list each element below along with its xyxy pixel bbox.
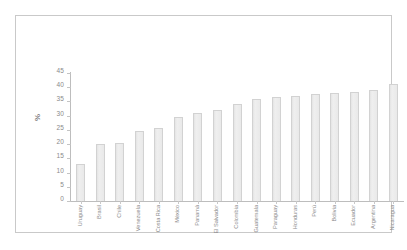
- y-axis-tick-label: 20: [57, 139, 64, 146]
- x-axis-tick-mark: [120, 201, 121, 204]
- x-axis-label-slot: Uruguay: [71, 203, 91, 249]
- x-axis-label-slot: Honduras: [286, 203, 306, 249]
- x-axis-label-slot: Argentina: [364, 203, 384, 249]
- bar-series: [71, 73, 403, 201]
- x-axis-tick-label: Paraguay: [273, 205, 279, 229]
- bar-slot: [71, 73, 91, 201]
- x-axis-tick-label: Costa Rica: [156, 205, 162, 232]
- bar-slot: [384, 73, 404, 201]
- x-axis-tick-mark: [139, 201, 140, 204]
- x-axis-label-slot: Brasil: [91, 203, 111, 249]
- bar-slot: [227, 73, 247, 201]
- bar-slot: [305, 73, 325, 201]
- bar[interactable]: [76, 164, 85, 201]
- x-axis-tick-mark: [335, 201, 336, 204]
- x-axis-tick-mark: [315, 201, 316, 204]
- bar[interactable]: [174, 117, 183, 201]
- y-axis-tick-label: 10: [57, 168, 64, 175]
- x-axis-tick-label: Colombia: [234, 205, 240, 229]
- bar-slot: [286, 73, 306, 201]
- x-axis-tick-mark: [217, 201, 218, 204]
- x-axis-label-slot: Venezuela: [130, 203, 150, 249]
- bar[interactable]: [389, 84, 398, 201]
- bar-slot: [325, 73, 345, 201]
- y-axis-tick-label: 15: [57, 153, 64, 160]
- chart-figure: % 051015202530354045 UruguayBrasilChileV…: [0, 0, 407, 250]
- x-axis-label-slot: Perú: [305, 203, 325, 249]
- x-axis-tick-label: Perú: [312, 205, 318, 217]
- bar[interactable]: [154, 128, 163, 201]
- y-axis-tick-label: 5: [60, 182, 64, 189]
- bar[interactable]: [291, 96, 300, 201]
- y-axis-tick-mark: [67, 201, 71, 202]
- x-axis-label-slot: Guatemala: [247, 203, 267, 249]
- bar[interactable]: [135, 131, 144, 201]
- bar-slot: [364, 73, 384, 201]
- x-axis-tick-label: Venezuela: [137, 205, 143, 231]
- bar[interactable]: [369, 90, 378, 201]
- bar-slot: [266, 73, 286, 201]
- bar[interactable]: [115, 143, 124, 201]
- x-axis-tick-mark: [237, 201, 238, 204]
- y-axis-tick-label: 45: [57, 68, 64, 75]
- bar-slot: [188, 73, 208, 201]
- x-axis-tick-label: México: [176, 205, 182, 223]
- x-axis-tick-label: Bolivia: [332, 205, 338, 221]
- x-axis-tick-label: Brasil: [98, 205, 104, 219]
- x-axis-tick-label: Argentina: [371, 205, 377, 229]
- x-axis-tick-mark: [354, 201, 355, 204]
- y-axis-tick-label: 40: [57, 82, 64, 89]
- x-axis-tick-label: El Salvador: [215, 205, 221, 234]
- x-axis-label-slot: El Salvador: [208, 203, 228, 249]
- y-axis-tick-label: 0: [60, 196, 64, 203]
- bar[interactable]: [272, 97, 281, 201]
- bar-slot: [91, 73, 111, 201]
- bar[interactable]: [311, 94, 320, 201]
- x-axis-labels: UruguayBrasilChileVenezuelaCosta RicaMéx…: [71, 203, 403, 249]
- x-axis-tick-label: Chile: [117, 205, 123, 218]
- x-axis-tick-label: Guatemala: [254, 205, 260, 232]
- x-axis-tick-label: Ecuador: [351, 205, 357, 226]
- x-axis-tick-label: Nicaragua: [390, 205, 396, 231]
- bar-slot: [149, 73, 169, 201]
- x-axis-label-slot: Bolivia: [325, 203, 345, 249]
- bar[interactable]: [193, 113, 202, 201]
- x-axis-label-slot: Chile: [110, 203, 130, 249]
- x-axis-tick-label: Uruguay: [78, 205, 84, 226]
- x-axis-tick-label: Honduras: [293, 205, 299, 229]
- bar-slot: [169, 73, 189, 201]
- x-axis-tick-mark: [296, 201, 297, 204]
- x-axis-tick-mark: [81, 201, 82, 204]
- x-axis-tick-mark: [100, 201, 101, 204]
- x-axis-tick-mark: [198, 201, 199, 204]
- x-axis-tick-mark: [178, 201, 179, 204]
- x-axis-tick-mark: [276, 201, 277, 204]
- bar[interactable]: [96, 144, 105, 201]
- bar[interactable]: [233, 104, 242, 201]
- x-axis-label-slot: Ecuador: [344, 203, 364, 249]
- x-axis-label-slot: Nicaragua: [384, 203, 404, 249]
- x-axis-label-slot: Paraguay: [266, 203, 286, 249]
- bar[interactable]: [252, 99, 261, 201]
- bar-slot: [247, 73, 267, 201]
- x-axis-label-slot: Costa Rica: [149, 203, 169, 249]
- x-axis-tick-label: Panamá: [195, 205, 201, 226]
- y-axis-tick-label: 25: [57, 125, 64, 132]
- bar-slot: [208, 73, 228, 201]
- chart-frame: % 051015202530354045 UruguayBrasilChileV…: [15, 15, 392, 233]
- x-axis-tick-mark: [257, 201, 258, 204]
- bar-slot: [110, 73, 130, 201]
- y-axis-title: %: [33, 114, 42, 121]
- x-axis-label-slot: México: [169, 203, 189, 249]
- x-axis-tick-mark: [159, 201, 160, 204]
- x-axis-label-slot: Panamá: [188, 203, 208, 249]
- bar[interactable]: [213, 110, 222, 201]
- y-axis-tick-label: 35: [57, 96, 64, 103]
- bar-slot: [344, 73, 364, 201]
- x-axis-tick-mark: [374, 201, 375, 204]
- bar-slot: [130, 73, 150, 201]
- bar[interactable]: [350, 92, 359, 201]
- bar[interactable]: [330, 93, 339, 201]
- y-axis-tick-label: 30: [57, 111, 64, 118]
- x-axis-label-slot: Colombia: [227, 203, 247, 249]
